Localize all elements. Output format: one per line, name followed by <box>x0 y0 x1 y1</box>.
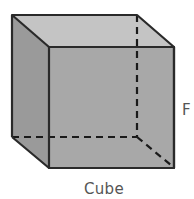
side-label: F <box>182 101 191 119</box>
cube-diagram <box>0 0 194 199</box>
cube-caption: Cube <box>84 180 124 198</box>
cube-front-face <box>49 47 174 168</box>
